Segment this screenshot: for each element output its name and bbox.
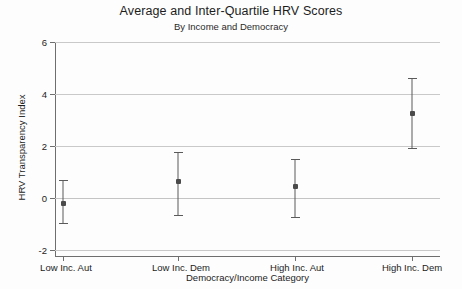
gridline-6 <box>55 42 440 43</box>
y-tick-label-2: 2 <box>42 141 47 152</box>
y-axis-label: HRV Transparency Index <box>16 73 27 223</box>
whisker-cap-lower <box>291 217 300 218</box>
y-tick-mark-2 <box>50 146 55 147</box>
y-tick-label-0: 0 <box>42 193 47 204</box>
mean-marker <box>176 179 181 184</box>
plot-area: 6 4 2 0 -2 <box>55 42 440 256</box>
x-tick-mark-0 <box>63 256 64 261</box>
whisker-cap-upper <box>291 159 300 160</box>
gridline-0 <box>55 198 440 199</box>
mean-marker <box>61 201 66 206</box>
mean-marker <box>293 184 298 189</box>
whisker-cap-upper <box>59 180 68 181</box>
gridline-neg2 <box>55 250 440 251</box>
x-tick-mark-1 <box>178 256 179 261</box>
x-axis-line <box>55 256 440 257</box>
x-tick-label-high-inc-dem: High Inc. Dem <box>382 262 442 273</box>
whisker-cap-lower <box>408 148 417 149</box>
x-tick-label-low-inc-dem: Low Inc. Dem <box>152 262 210 273</box>
x-tick-label-high-inc-aut: High Inc. Aut <box>270 262 324 273</box>
chart-title: Average and Inter-Quartile HRV Scores <box>0 4 462 18</box>
whisker-cap-lower <box>59 223 68 224</box>
x-axis-label: Democracy/Income Category <box>55 272 440 283</box>
gridline-2 <box>55 146 440 147</box>
x-tick-label-low-inc-aut: Low Inc. Aut <box>40 262 92 273</box>
whisker-cap-lower <box>174 215 183 216</box>
chart-canvas: Average and Inter-Quartile HRV Scores By… <box>0 0 462 289</box>
y-tick-mark-4 <box>50 94 55 95</box>
whisker-cap-upper <box>408 78 417 79</box>
gridline-4 <box>55 94 440 95</box>
y-tick-label-4: 4 <box>42 89 47 100</box>
whisker-cap-upper <box>174 152 183 153</box>
y-tick-label-neg2: -2 <box>39 245 47 256</box>
x-tick-mark-2 <box>295 256 296 261</box>
y-tick-mark-6 <box>50 42 55 43</box>
mean-marker <box>410 111 415 116</box>
y-tick-mark-neg2 <box>50 250 55 251</box>
y-tick-label-6: 6 <box>42 37 47 48</box>
x-tick-mark-3 <box>412 256 413 261</box>
y-tick-mark-0 <box>50 198 55 199</box>
chart-subtitle: By Income and Democracy <box>0 21 462 32</box>
